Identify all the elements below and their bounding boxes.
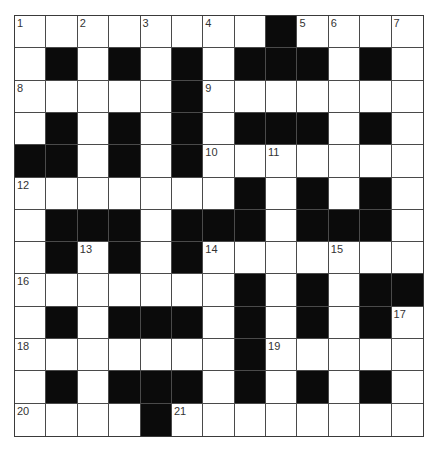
grid-cell[interactable] [329, 178, 360, 210]
grid-cell[interactable] [78, 307, 109, 339]
grid-cell[interactable] [392, 404, 423, 436]
grid-cell[interactable] [392, 113, 423, 145]
grid-cell[interactable]: 7 [392, 16, 423, 48]
grid-cell[interactable] [46, 274, 77, 306]
grid-cell[interactable] [78, 274, 109, 306]
grid-cell[interactable] [329, 48, 360, 80]
grid-cell[interactable] [235, 242, 266, 274]
grid-cell[interactable] [203, 113, 234, 145]
grid-cell[interactable] [109, 81, 140, 113]
grid-cell[interactable] [266, 242, 297, 274]
grid-cell[interactable]: 8 [15, 81, 46, 113]
grid-cell[interactable] [203, 404, 234, 436]
grid-cell[interactable] [78, 113, 109, 145]
grid-cell[interactable] [297, 339, 328, 371]
grid-cell[interactable] [78, 371, 109, 403]
grid-cell[interactable] [392, 371, 423, 403]
grid-cell[interactable] [235, 404, 266, 436]
grid-cell[interactable] [172, 178, 203, 210]
grid-cell[interactable] [360, 404, 391, 436]
grid-cell[interactable] [266, 81, 297, 113]
grid-cell[interactable] [141, 178, 172, 210]
grid-cell[interactable] [360, 339, 391, 371]
grid-cell[interactable] [392, 48, 423, 80]
grid-cell[interactable] [141, 113, 172, 145]
grid-cell[interactable]: 9 [203, 81, 234, 113]
grid-cell[interactable] [15, 371, 46, 403]
grid-cell[interactable] [266, 307, 297, 339]
grid-cell[interactable]: 1 [15, 16, 46, 48]
grid-cell[interactable] [266, 371, 297, 403]
grid-cell[interactable] [235, 16, 266, 48]
grid-cell[interactable]: 2 [78, 16, 109, 48]
grid-cell[interactable] [172, 274, 203, 306]
grid-cell[interactable]: 12 [15, 178, 46, 210]
grid-cell[interactable] [141, 242, 172, 274]
grid-cell[interactable]: 3 [141, 16, 172, 48]
grid-cell[interactable] [203, 274, 234, 306]
grid-cell[interactable] [392, 339, 423, 371]
grid-cell[interactable] [392, 81, 423, 113]
grid-cell[interactable]: 10 [203, 145, 234, 177]
grid-cell[interactable]: 21 [172, 404, 203, 436]
grid-cell[interactable] [297, 242, 328, 274]
grid-cell[interactable] [360, 81, 391, 113]
grid-cell[interactable] [15, 307, 46, 339]
grid-cell[interactable] [360, 242, 391, 274]
grid-cell[interactable] [266, 274, 297, 306]
grid-cell[interactable] [266, 404, 297, 436]
grid-cell[interactable] [141, 145, 172, 177]
grid-cell[interactable] [15, 48, 46, 80]
grid-cell[interactable] [46, 178, 77, 210]
grid-cell[interactable] [266, 210, 297, 242]
grid-cell[interactable] [172, 16, 203, 48]
grid-cell[interactable]: 18 [15, 339, 46, 371]
grid-cell[interactable] [46, 339, 77, 371]
grid-cell[interactable] [46, 16, 77, 48]
grid-cell[interactable]: 13 [78, 242, 109, 274]
grid-cell[interactable] [203, 307, 234, 339]
grid-cell[interactable]: 6 [329, 16, 360, 48]
grid-cell[interactable]: 20 [15, 404, 46, 436]
grid-cell[interactable] [360, 16, 391, 48]
grid-cell[interactable] [141, 48, 172, 80]
grid-cell[interactable] [297, 81, 328, 113]
grid-cell[interactable] [46, 81, 77, 113]
grid-cell[interactable] [329, 339, 360, 371]
grid-cell[interactable]: 15 [329, 242, 360, 274]
grid-cell[interactable] [78, 81, 109, 113]
grid-cell[interactable]: 11 [266, 145, 297, 177]
grid-cell[interactable] [109, 339, 140, 371]
grid-cell[interactable] [329, 145, 360, 177]
grid-cell[interactable] [78, 339, 109, 371]
grid-cell[interactable] [78, 404, 109, 436]
grid-cell[interactable] [109, 404, 140, 436]
grid-cell[interactable] [141, 81, 172, 113]
grid-cell[interactable] [203, 48, 234, 80]
grid-cell[interactable] [392, 178, 423, 210]
grid-cell[interactable] [172, 339, 203, 371]
grid-cell[interactable] [15, 113, 46, 145]
grid-cell[interactable] [141, 339, 172, 371]
grid-cell[interactable] [46, 404, 77, 436]
grid-cell[interactable] [392, 242, 423, 274]
grid-cell[interactable] [203, 178, 234, 210]
grid-cell[interactable] [109, 274, 140, 306]
grid-cell[interactable] [109, 178, 140, 210]
grid-cell[interactable] [392, 145, 423, 177]
grid-cell[interactable] [235, 81, 266, 113]
grid-cell[interactable] [203, 371, 234, 403]
grid-cell[interactable] [329, 81, 360, 113]
grid-cell[interactable] [141, 210, 172, 242]
grid-cell[interactable] [329, 404, 360, 436]
grid-cell[interactable] [297, 145, 328, 177]
grid-cell[interactable] [15, 210, 46, 242]
grid-cell[interactable] [266, 178, 297, 210]
grid-cell[interactable]: 14 [203, 242, 234, 274]
grid-cell[interactable] [141, 274, 172, 306]
grid-cell[interactable] [109, 16, 140, 48]
grid-cell[interactable] [78, 178, 109, 210]
grid-cell[interactable] [78, 48, 109, 80]
grid-cell[interactable]: 5 [297, 16, 328, 48]
grid-cell[interactable]: 16 [15, 274, 46, 306]
